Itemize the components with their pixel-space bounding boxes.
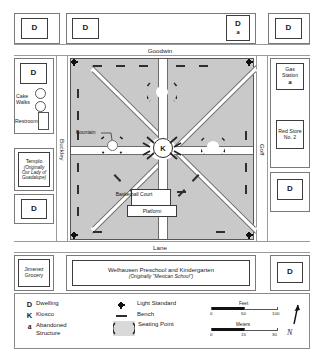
dwelling-symbol: D bbox=[287, 185, 293, 193]
scale-tick-label: 100 bbox=[272, 311, 279, 316]
legend-bench-row: Bench bbox=[115, 311, 154, 319]
right-building-dwelling-1: D bbox=[277, 179, 303, 200]
bench-icon bbox=[93, 231, 102, 233]
street-label-goff: Goff bbox=[257, 125, 267, 175]
fountain-label: Fountain bbox=[76, 129, 95, 135]
cake-walk-circle-1 bbox=[35, 88, 46, 99]
abandoned-symbol: a bbox=[23, 322, 36, 331]
scale-name-meters: Meters bbox=[236, 322, 250, 327]
top-building-1: D bbox=[72, 18, 99, 39]
fountain-text: Fountain bbox=[76, 129, 95, 135]
bench-icon bbox=[176, 65, 185, 67]
scale-tick-label: 15 bbox=[241, 332, 246, 337]
dwelling-symbol: D bbox=[31, 205, 37, 213]
restrooms-box bbox=[38, 112, 49, 130]
bench-icon bbox=[216, 231, 225, 233]
bench-icon bbox=[77, 207, 79, 216]
legend-label-abandoned: Abandoned Structure bbox=[36, 322, 90, 337]
street-label-goodwin: Goodwin bbox=[120, 45, 200, 55]
legend-label: Bench bbox=[137, 311, 154, 319]
basketball-court-label: Basketball Court bbox=[112, 192, 156, 198]
scale-fill bbox=[211, 328, 244, 331]
red-store-label: Red Store No. 2 bbox=[277, 129, 303, 141]
street-label-lane: Lane bbox=[125, 242, 195, 252]
scale-tick-label: 30 bbox=[272, 332, 277, 337]
bench-icon bbox=[77, 89, 79, 98]
templo-original-name: (Originally Our Lady of Guadalupe) bbox=[20, 165, 48, 180]
dwelling-symbol: D bbox=[31, 69, 37, 77]
scale-line bbox=[244, 330, 277, 331]
scale-fill bbox=[211, 307, 244, 310]
light-standard-icon bbox=[72, 233, 76, 237]
scale-bar-feet: Feet 0 50 100 bbox=[211, 301, 283, 317]
bench-icon bbox=[245, 185, 247, 194]
jimenez-grocery-label: Jimenez Grocery bbox=[19, 267, 49, 279]
fountain-leader-line bbox=[101, 131, 117, 143]
dwelling-symbol: D bbox=[23, 300, 36, 309]
scale-tick bbox=[277, 307, 278, 310]
seating-point-east bbox=[201, 134, 225, 158]
bench-icon bbox=[245, 163, 247, 172]
bench-icon bbox=[77, 111, 79, 120]
platform-label: Platform bbox=[143, 208, 162, 214]
scale-tick bbox=[211, 328, 212, 331]
restrooms-text: Restrooms bbox=[15, 119, 40, 125]
right-building-dwelling-2: D bbox=[277, 262, 303, 283]
dwelling-symbol: D bbox=[287, 268, 293, 276]
legend-light-standard-row: Light Standard bbox=[115, 300, 176, 308]
kiosco-symbol: K bbox=[23, 311, 36, 320]
north-label: N bbox=[287, 328, 292, 337]
bench-icon bbox=[199, 65, 208, 67]
seating-point-icon bbox=[113, 321, 135, 336]
map-legend: D Dwelling K Kiosco a Abandoned Structur… bbox=[14, 293, 310, 349]
seating-point-center-ring bbox=[139, 125, 185, 171]
dwelling-symbol: D bbox=[83, 24, 89, 32]
gas-station-building: Gas Station a bbox=[276, 63, 304, 90]
scale-tick bbox=[277, 328, 278, 331]
school-building: Welhausen Preschool and Kindergarten (Or… bbox=[72, 260, 250, 286]
basketball-court-text: Basketball Court bbox=[116, 191, 153, 197]
legend-item-abandoned: a Abandoned Structure bbox=[23, 322, 88, 331]
jimenez-grocery-building: Jimenez Grocery bbox=[18, 259, 50, 287]
legend-item-kiosco: K Kiosco bbox=[23, 311, 54, 320]
seating-point-north bbox=[147, 79, 177, 105]
scale-tick-label: 50 bbox=[241, 311, 246, 316]
left-building-dwelling-2: D bbox=[21, 199, 47, 219]
platform-box: Platform bbox=[127, 205, 177, 217]
top-building-3: D bbox=[275, 18, 302, 39]
abandoned-symbol: a bbox=[236, 29, 240, 36]
dwelling-symbol: D bbox=[32, 24, 38, 32]
abandoned-symbol: a bbox=[288, 79, 292, 86]
dwelling-symbol: D bbox=[286, 24, 292, 32]
cake-walk-circle-2 bbox=[35, 101, 46, 112]
bench-icon bbox=[116, 65, 125, 67]
bench-icon bbox=[245, 131, 247, 140]
bench-icon bbox=[177, 191, 186, 193]
bench-icon bbox=[114, 174, 122, 182]
scale-tick-label: 0 bbox=[210, 332, 212, 337]
gas-station-label: Gas Station bbox=[277, 67, 303, 79]
templo-building: Templo (Originally Our Lady of Guadalupe… bbox=[18, 152, 50, 187]
bench-icon bbox=[77, 163, 79, 172]
scale-line bbox=[244, 309, 277, 310]
school-original-name: (Originally "Mexican School") bbox=[129, 274, 193, 280]
light-standard-icon bbox=[247, 60, 251, 64]
top-building-2: D a bbox=[226, 15, 250, 41]
legend-seating-point-row: Seating Point bbox=[113, 321, 174, 329]
red-store-building: Red Store No. 2 bbox=[276, 120, 304, 149]
street-label-buckley: Buckley bbox=[57, 120, 67, 180]
bench-icon bbox=[93, 65, 102, 67]
bench-icon bbox=[192, 174, 200, 182]
north-arrow-icon bbox=[289, 302, 303, 330]
scale-tick bbox=[244, 307, 245, 310]
scale-tick bbox=[211, 307, 212, 310]
scale-tick bbox=[244, 328, 245, 331]
legend-label: Kiosco bbox=[36, 311, 54, 319]
bench-icon bbox=[77, 185, 79, 194]
left-building-dwelling-1: D bbox=[20, 63, 47, 84]
bench-icon bbox=[139, 65, 148, 67]
legend-label: Dwelling bbox=[36, 300, 59, 308]
plaza-area: K bbox=[70, 58, 254, 240]
light-standard-icon bbox=[119, 303, 123, 307]
legend-label: Light Standard bbox=[137, 300, 176, 308]
